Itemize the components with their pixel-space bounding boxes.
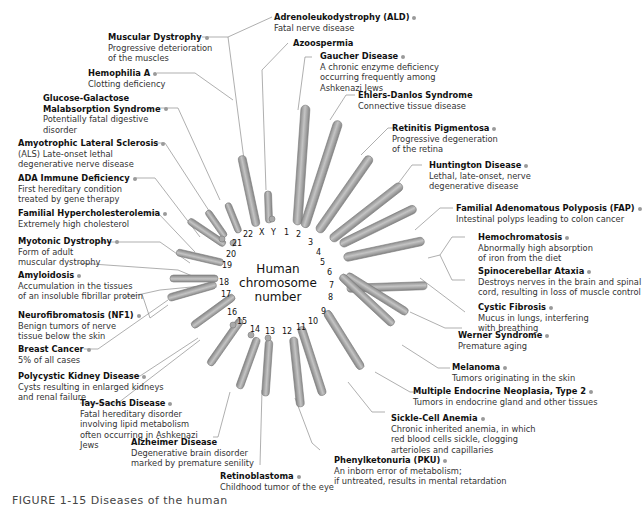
chr-num-15: 15 <box>237 317 247 326</box>
disease-hemophilia-a: Hemophilia A Clotting deficiency <box>88 68 165 89</box>
dot-icon <box>412 16 416 20</box>
chr-num-21: 21 <box>232 239 242 248</box>
chr-num-19: 19 <box>222 261 232 270</box>
disease-name: Familial Hypercholesterolemia <box>18 208 160 218</box>
disease-desc: of the retina <box>392 144 498 155</box>
chr-num-13: 13 <box>265 327 275 336</box>
disease-desc: Lethal, late-onset, nerve <box>429 171 531 182</box>
disease-name: Multiple Endocrine Neoplasia, Type 2 <box>413 386 586 396</box>
disease-desc: degenerative nerve disease <box>18 159 165 170</box>
disease-breast-cancer: Breast Cancer 5% of all cases <box>18 344 91 365</box>
center-title-line1: Human <box>233 262 323 276</box>
disease-fap: Familial Adenomatous Polyposis (FAP) Int… <box>456 203 642 224</box>
disease-sickle-cell: Sickle-Cell Anemia Chronic inherited ane… <box>391 413 536 455</box>
disease-muscular-dystrophy: Muscular Dystrophy Progressive deteriora… <box>108 32 212 64</box>
disease-desc: Childhood tumor of the eye <box>220 482 334 493</box>
disease-name: Amyloidosis <box>18 270 74 280</box>
chromosomes <box>167 105 427 407</box>
chr-num-14: 14 <box>250 325 260 334</box>
disease-name-line2: Malabsorption Syndrome <box>43 104 161 114</box>
disease-ehlers-danlos: Ehlers-Danlos Syndrome Connective tissue… <box>358 90 473 111</box>
disease-nf1: Neurofibromatosis (NF1) Benign tumors of… <box>18 310 141 342</box>
disease-desc: Progressive degeneration <box>392 134 498 145</box>
disease-name: Azoospermia <box>293 38 353 48</box>
dot-icon <box>524 164 528 168</box>
center-title-line3: number <box>233 290 323 304</box>
disease-desc: 5% of all cases <box>18 355 91 366</box>
disease-desc: Fatal nerve disease <box>274 23 416 34</box>
figure-caption: FIGURE 1-15 Diseases of the human <box>12 494 228 507</box>
chr-num-2: 2 <box>296 230 301 239</box>
chr-num-4: 4 <box>316 248 321 257</box>
chr-num-7: 7 <box>329 281 334 290</box>
disease-desc: Progressive deterioration <box>108 43 212 54</box>
disease-desc: Form of adult <box>18 247 119 258</box>
dot-icon <box>443 459 447 463</box>
disease-desc: Fatal hereditary disorder <box>80 409 198 420</box>
disease-desc: Tumors originating in the skin <box>452 373 575 384</box>
disease-name: Breast Cancer <box>18 344 84 354</box>
disease-name: Melanoma <box>452 362 500 372</box>
disease-name: Alzheimer Disease <box>131 437 217 447</box>
disease-alzheimer: Alzheimer Disease Degenerative brain dis… <box>131 437 254 469</box>
dot-icon <box>297 475 301 479</box>
disease-desc: muscular dystrophy <box>18 257 119 268</box>
dot-icon <box>492 127 496 131</box>
chr-num-11: 11 <box>296 323 306 332</box>
dot-icon <box>77 274 81 278</box>
disease-desc: disorder <box>43 125 168 136</box>
disease-pku: Phenylketonuria (PKU) An inborn error of… <box>334 455 507 487</box>
dot-icon <box>587 270 591 274</box>
disease-desc: Premature aging <box>458 341 549 352</box>
disease-desc: Abnormally high absorption <box>478 243 593 254</box>
disease-desc: First hereditary condition <box>18 184 137 195</box>
chr-num-12: 12 <box>282 327 292 336</box>
disease-desc: red blood cells sickle, clogging <box>391 434 536 445</box>
dot-icon <box>115 240 119 244</box>
disease-desc: if untreated, results in mental retardat… <box>334 476 507 487</box>
disease-desc: of iron from the diet <box>478 253 593 264</box>
disease-name: Ehlers-Danlos Syndrome <box>358 90 473 100</box>
disease-name: Hemophilia A <box>88 68 150 78</box>
disease-desc: Extremely high cholesterol <box>18 219 167 230</box>
dot-icon <box>565 236 569 240</box>
chr-num-3: 3 <box>308 238 313 247</box>
disease-hemochromatosis: Hemochromatosis Abnormally high absorpti… <box>478 232 593 264</box>
dot-icon <box>137 314 141 318</box>
dot-icon <box>589 390 593 394</box>
disease-desc: cord, resulting in loss of muscle contro… <box>478 287 641 298</box>
dot-icon <box>153 72 157 76</box>
disease-retinoblastoma: Retinoblastoma Childhood tumor of the ey… <box>220 471 334 492</box>
disease-desc: Potentially fatal digestive <box>43 114 168 125</box>
disease-name: Cystic Fibrosis <box>478 302 546 312</box>
disease-cystic-fibrosis: Cystic Fibrosis Mucus in lungs, interfer… <box>478 302 589 334</box>
disease-desc: of the muscles <box>108 53 212 64</box>
center-title: Human chromosome number <box>233 262 323 304</box>
dot-icon <box>481 417 485 421</box>
dot-icon <box>549 306 553 310</box>
disease-name: Retinoblastoma <box>220 471 294 481</box>
disease-ald: Adrenoleukodystrophy (ALD) Fatal nerve d… <box>274 12 416 33</box>
disease-desc: (ALS) Late-onset lethal <box>18 149 165 160</box>
disease-myotonic: Myotonic Dystrophy Form of adult muscula… <box>18 236 119 268</box>
disease-azoospermia: Azoospermia <box>293 38 353 49</box>
chr-num-9: 9 <box>321 307 326 316</box>
dot-icon <box>638 207 642 211</box>
disease-name: Huntington Disease <box>429 160 521 170</box>
chr-num-10: 10 <box>308 317 318 326</box>
disease-desc: of an insoluble fibrillar protein <box>18 291 143 302</box>
chr-num-18: 18 <box>219 278 229 287</box>
disease-name: Retinitis Pigmentosa <box>392 123 489 133</box>
dot-icon <box>142 375 146 379</box>
dot-icon <box>503 366 507 370</box>
dot-icon <box>205 36 209 40</box>
disease-desc: An inborn error of metabolism; <box>334 466 507 477</box>
disease-name: Sickle-Cell Anemia <box>391 413 478 423</box>
disease-name: Glucose-Galactose <box>43 93 168 104</box>
disease-desc: Clotting deficiency <box>88 79 165 90</box>
disease-desc: Chronic inherited anemia, in which <box>391 424 536 435</box>
disease-desc: marked by premature senility <box>131 458 254 469</box>
disease-name: Werner Syndrome <box>458 330 542 340</box>
disease-desc: Accumulation in the tissues <box>18 281 143 292</box>
disease-desc: Intestinal polyps leading to colon cance… <box>456 214 642 225</box>
